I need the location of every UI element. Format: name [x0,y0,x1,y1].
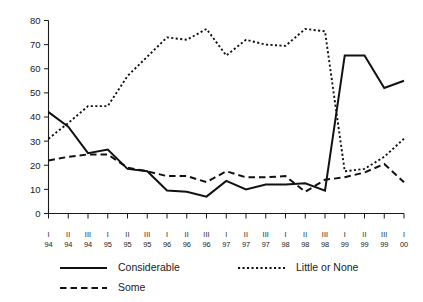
x-tick-label-quarter: II [125,230,129,239]
x-tick-label-quarter: II [244,230,248,239]
x-tick-label-group: I94II94III94I95II95III95I96II96III96I97I… [44,230,408,249]
legend-label-considerable: Considerable [118,261,180,273]
y-tick-label: 70 [30,39,41,50]
chart-legend: ConsiderableLittle or NoneSome [60,261,359,293]
chart-container: 01020304050607080 I94II94III94I95II95III… [0,0,423,302]
x-tick-label-year: 98 [321,240,329,249]
x-tick-label-year: 95 [104,240,112,249]
x-tick-label-year: 99 [341,240,349,249]
x-tick-label-quarter: III [144,230,151,239]
legend-label-little-or-none: Little or None [296,261,359,273]
y-tick-label: 60 [30,63,41,74]
x-tick-label-quarter: I [344,230,346,239]
x-tick-label-year: 96 [183,240,191,249]
y-tick-label: 40 [30,111,41,122]
x-tick-label-year: 97 [222,240,230,249]
x-tick-label-year: 94 [64,240,72,249]
x-tick-label-quarter: I [47,230,49,239]
legend-label-some: Some [118,281,146,293]
y-tick-label: 30 [30,136,41,147]
x-tick-label-year: 96 [202,240,210,249]
y-tick-label: 20 [30,160,41,171]
x-tick-label-quarter: I [107,230,109,239]
y-tick-label: 80 [30,15,41,26]
x-tick-label-year: 97 [262,240,270,249]
x-tick-label-quarter: III [381,230,388,239]
x-tick-label-year: 98 [301,240,309,249]
y-axis: 01020304050607080 [30,15,49,219]
x-tick-label-quarter: III [322,230,329,239]
x-tick-label-year: 96 [163,240,171,249]
x-tick-label-year: 00 [400,240,408,249]
x-tick-label-quarter: II [362,230,366,239]
series-line-considerable [49,55,405,196]
x-tick-label-year: 94 [44,240,52,249]
y-tick-label: 0 [35,208,40,219]
x-tick-label-quarter: II [185,230,189,239]
x-tick-label-quarter: III [262,230,269,239]
y-tick-label: 10 [30,184,41,195]
series-line-some [49,154,405,191]
x-tick-label-year: 95 [143,240,151,249]
x-tick-label-quarter: I [225,230,227,239]
x-tick-label-year: 95 [123,240,131,249]
x-tick-label-quarter: II [66,230,70,239]
x-tick-label-quarter: III [203,230,210,239]
line-chart: 01020304050607080 I94II94III94I95II95III… [0,0,423,302]
y-tick-label: 50 [30,87,41,98]
x-tick-label-quarter: I [284,230,286,239]
x-tick-label-year: 99 [360,240,368,249]
x-tick-label-year: 94 [84,240,92,249]
x-axis [49,214,405,219]
x-tick-label-quarter: II [303,230,307,239]
x-tick-label-year: 98 [281,240,289,249]
x-tick-label-year: 99 [380,240,388,249]
x-tick-label-year: 97 [242,240,250,249]
x-tick-label-quarter: I [166,230,168,239]
x-tick-label-quarter: III [85,230,92,239]
series-group [49,29,405,197]
y-tick-group: 01020304050607080 [30,15,49,219]
x-tick-group [49,214,405,219]
x-tick-label-quarter: I [403,230,405,239]
